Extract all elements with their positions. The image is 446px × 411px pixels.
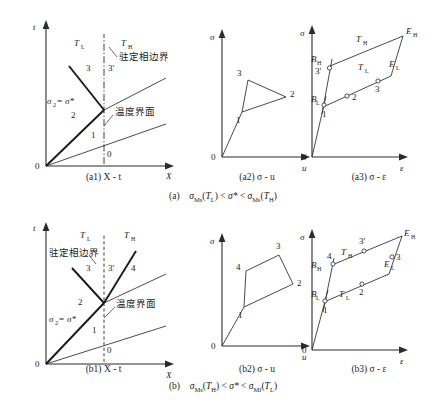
svg-text:T: T (74, 38, 80, 48)
svg-text:σ*: σ* (67, 314, 76, 324)
b2-point-label-1: 1 (238, 310, 243, 320)
b1-y-arrow (43, 222, 50, 231)
svg-text:σ*: σ* (65, 96, 74, 106)
svg-text:=: = (59, 314, 64, 324)
a1-annotation-temperature-interface: 温度界面 (115, 106, 155, 117)
svg-text:T: T (341, 247, 347, 257)
b1-sigma-star-label: σ 2 = σ* (49, 314, 76, 326)
b2-origin-label: 0 (211, 341, 216, 351)
a3-point-label-3prime: 3' (315, 66, 322, 76)
svg-text:T: T (80, 230, 86, 240)
b3-y-arrow (309, 229, 316, 238)
svg-text:H: H (363, 40, 368, 46)
a1-leader-stationary-boundary (109, 47, 117, 57)
svg-text:H: H (413, 32, 418, 38)
b3-node-2 (360, 282, 364, 286)
svg-text:H: H (128, 44, 133, 50)
a3-origin-label: 0 (302, 152, 307, 162)
b1-wave-label-0: 0 (107, 345, 112, 355)
svg-text:H: H (317, 266, 322, 272)
svg-text:H: H (411, 234, 416, 240)
panel-b3: 0 σ ε B H B L E H E L T H (296, 222, 442, 377)
svg-text:σ: σ (47, 96, 52, 106)
a3-label-EH: E H (405, 26, 418, 38)
row-a-sigma-right: σMs(TH) (248, 191, 277, 201)
panel-b1-plot: 0 t X T L T H 3 3' 4 2 1 0 σ 2 = σ* (16, 218, 191, 378)
panel-b3-plot: 0 σ ε B H B L E H E L T H (296, 222, 442, 377)
a1-ray-0 (46, 124, 166, 166)
a3-label-BH: B H (311, 54, 322, 66)
panel-a1-caption: (a1) X - t (16, 172, 191, 182)
b3-curve-label-TH: T H (341, 247, 353, 259)
b3-node-3 (390, 255, 394, 259)
a3-point-label-1: 1 (322, 109, 327, 119)
a3-axes (309, 25, 408, 160)
svg-text:T: T (121, 38, 127, 48)
a1-wave-label-3prime: 3' (108, 63, 115, 73)
svg-text:L: L (346, 295, 350, 301)
row-a-sigma-star: σ* (228, 191, 237, 201)
svg-text:H: H (131, 236, 136, 242)
row-a-caption: (a) σMs(TL) < σ* < σMs(TH) (0, 191, 446, 203)
a1-x-arrow (165, 163, 174, 170)
b1-y-axis-label: t (33, 223, 36, 233)
svg-text:T: T (356, 34, 362, 44)
svg-text:E: E (388, 59, 395, 69)
a2-point-label-1: 1 (236, 115, 241, 125)
a2-point-label-2: 2 (290, 89, 295, 99)
row-a-sigma-left: σMs(TL) (189, 191, 220, 201)
svg-text:L: L (316, 295, 320, 301)
row-a-lt-2: < (240, 191, 245, 201)
svg-text:E: E (403, 228, 410, 238)
svg-text:2: 2 (55, 320, 58, 326)
b3-node-1 (323, 299, 327, 303)
b2-point-label-4: 4 (236, 262, 241, 272)
row-b-caption-prefix: (b) (169, 381, 180, 391)
b1-wave-label-1: 1 (92, 325, 97, 335)
b1-region-label-TH: T H (124, 230, 136, 242)
b2-seg-1-4 (244, 271, 246, 307)
row-b-lt-1: < (222, 381, 227, 391)
b3-point-label-4: 4 (327, 251, 332, 261)
panel-a1: 0 t X T L T H 3 3' 2 1 0 σ 2 = σ* 驻定相边界 (16, 14, 191, 174)
b2-y-axis-label: σ (210, 236, 215, 246)
b3-node-4 (331, 262, 335, 266)
svg-text:E: E (383, 259, 390, 269)
b3-label-EH: E H (403, 228, 416, 240)
a1-wave-label-0: 0 (107, 149, 112, 159)
b1-region-label-TL: T L (80, 230, 91, 242)
row-b-sigma-right: σMf(TL) (249, 381, 277, 391)
b3-y-axis-label: σ (300, 232, 305, 242)
row-b-sigma-left: σMs(TH) (190, 381, 222, 391)
svg-text:L: L (81, 44, 85, 50)
a3-node-3prime (327, 66, 331, 70)
a1-axes (43, 20, 174, 169)
a2-y-arrow (219, 29, 226, 38)
a3-curve-label-TH: T H (356, 34, 368, 46)
row-b-sigma-star: σ* (229, 381, 238, 391)
a1-region-label-TL: T L (74, 38, 85, 50)
a1-sigma-star-label: σ 2 = σ* (47, 96, 74, 108)
svg-text:T: T (339, 289, 345, 299)
b2-y-arrow (219, 233, 226, 242)
panel-a3-caption: (a3) σ - ε (296, 172, 442, 182)
b3-curve-label-TL: T L (339, 289, 350, 301)
a2-origin-label: 0 (211, 152, 216, 162)
b2-point-label-3: 3 (276, 241, 281, 251)
svg-text:L: L (316, 100, 320, 106)
a1-annotation-stationary-phase-boundary: 驻定相边界 (119, 51, 169, 62)
svg-text:L: L (391, 265, 395, 271)
svg-text:L: L (396, 65, 400, 71)
b1-ray-3 (72, 268, 104, 303)
b1-leader-temperature-interface (104, 307, 115, 318)
a3-y-arrow (309, 25, 316, 34)
svg-text:H: H (348, 253, 353, 259)
a3-point-label-3: 3 (375, 84, 380, 94)
a3-node-3 (376, 79, 380, 83)
b3-point-label-3: 3 (396, 252, 401, 262)
a1-wave-label-2: 2 (71, 110, 76, 120)
a2-seg-2-1 (242, 97, 286, 112)
b3-x-arrow (399, 347, 408, 354)
b3-node-3prime (362, 249, 366, 253)
b1-annotation-temperature-interface: 温度界面 (116, 298, 156, 309)
